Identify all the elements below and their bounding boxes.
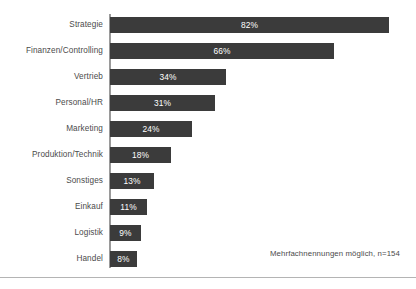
category-label: Marketing [0,121,103,137]
bar-value-label: 8% [110,251,137,267]
plot-area: Strategie 82% Finanzen/Controlling 66% V… [0,0,416,270]
bar-rect[interactable]: 18% [110,147,171,163]
bar-track: 8% [110,251,137,267]
bar-value-label: 82% [110,17,389,33]
category-label: Einkauf [0,199,103,215]
bar-row: Produktion/Technik 18% [0,147,416,163]
bar-row: Vertrieb 34% [0,69,416,85]
category-label: Produktion/Technik [0,147,103,163]
bar-value-label: 11% [110,199,147,215]
category-label: Handel [0,251,103,267]
bar-rect[interactable]: 31% [110,95,215,111]
category-label: Logistik [0,225,103,241]
bar-row: Einkauf 11% [0,199,416,215]
category-label: Finanzen/Controlling [0,43,103,59]
bar-rect[interactable]: 82% [110,17,389,33]
bar-track: 9% [110,225,141,241]
bar-track: 24% [110,121,192,137]
bar-row: Personal/HR 31% [0,95,416,111]
bar-value-label: 24% [110,121,192,137]
category-label: Vertrieb [0,69,103,85]
bar-track: 82% [110,17,389,33]
bar-value-label: 66% [110,43,334,59]
bar-track: 66% [110,43,334,59]
bar-row: Finanzen/Controlling 66% [0,43,416,59]
bar-row: Strategie 82% [0,17,416,33]
bar-rect[interactable]: 13% [110,173,154,189]
bar-value-label: 13% [110,173,154,189]
bar-track: 18% [110,147,171,163]
bar-track: 11% [110,199,147,215]
bar-rect[interactable]: 9% [110,225,141,241]
bar-rect[interactable]: 24% [110,121,192,137]
bar-value-label: 31% [110,95,215,111]
bar-value-label: 18% [110,147,171,163]
bar-rect[interactable]: 66% [110,43,334,59]
bar-track: 13% [110,173,154,189]
bar-rect[interactable]: 8% [110,251,137,267]
bar-row: Logistik 9% [0,225,416,241]
bar-track: 31% [110,95,215,111]
bar-value-label: 9% [110,225,141,241]
category-label: Strategie [0,17,103,33]
bar-track: 34% [110,69,226,85]
bottom-divider [0,277,416,278]
bar-rect[interactable]: 34% [110,69,226,85]
bar-row: Marketing 24% [0,121,416,137]
bar-rect[interactable]: 11% [110,199,147,215]
bar-value-label: 34% [110,69,226,85]
category-label: Sonstiges [0,173,103,189]
bar-chart-figure: Strategie 82% Finanzen/Controlling 66% V… [0,0,416,289]
bar-row: Sonstiges 13% [0,173,416,189]
chart-footnote: Mehrfachnennungen möglich, n=154 [270,249,400,258]
category-label: Personal/HR [0,95,103,111]
